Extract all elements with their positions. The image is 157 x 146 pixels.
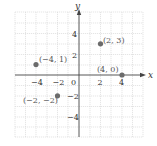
point-label: (−2, −2) [23,96,58,105]
data-point [33,62,38,67]
origin-label: 0 [71,78,76,87]
x-axis-label: x [148,70,153,80]
x-tick-label: 4 [119,78,124,87]
y-tick-label: 4 [72,30,77,39]
point-label: (4, 0) [97,65,119,74]
point-label: (−4, 1) [39,55,67,64]
y-tick-label: −4 [67,113,79,122]
y-tick-label: 2 [72,51,77,60]
data-point [119,72,124,77]
point-label: (2, 3) [103,36,125,45]
x-tick-label: 2 [98,78,103,87]
y-axis-label: y [74,1,81,11]
x-tick-label: −2 [53,78,65,87]
coordinate-plane: x y −4 −2 0 2 4 4 2 −2 −4 (−4, 1) (2, 3)… [0,0,157,146]
y-tick-label: −2 [67,92,79,101]
x-tick-label: −4 [31,78,43,87]
